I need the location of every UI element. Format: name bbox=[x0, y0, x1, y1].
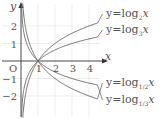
y-axis-label: y bbox=[9, 0, 17, 13]
curves bbox=[22, 3, 103, 118]
origin-label: O bbox=[9, 63, 17, 74]
x-tick-label: 3 bbox=[70, 63, 76, 74]
leader-line bbox=[98, 14, 103, 23]
curve-label: y=log3x bbox=[105, 23, 149, 37]
curve-label: y=log1/3x bbox=[105, 93, 155, 107]
y-tick-label: 2 bbox=[11, 21, 17, 32]
x-axis-label: x bbox=[105, 50, 112, 63]
labels: y x O 123421−1−2y=log2xy=log3xy=log1/2xy… bbox=[2, 0, 155, 107]
curve-y-log-3-x bbox=[22, 37, 98, 117]
x-tick-label: 1 bbox=[36, 63, 42, 74]
y-tick-label: −2 bbox=[2, 91, 17, 102]
curve-y-log-1-2-x bbox=[23, 3, 98, 99]
y-tick-label: 1 bbox=[11, 39, 17, 50]
y-tick-label: −1 bbox=[2, 74, 17, 85]
x-tick-label: 2 bbox=[53, 63, 59, 74]
leader-line bbox=[98, 30, 103, 37]
curve-label: y=log1/2x bbox=[105, 76, 155, 90]
log-function-chart: y x O 123421−1−2y=log2xy=log3xy=log1/2xy… bbox=[0, 0, 161, 119]
curve-label: y=log2x bbox=[105, 7, 149, 21]
x-tick-label: 4 bbox=[87, 63, 93, 74]
